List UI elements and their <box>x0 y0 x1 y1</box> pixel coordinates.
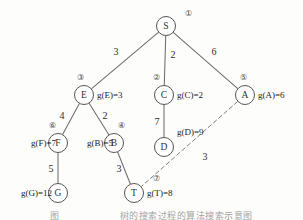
edge-weight-s-a: 6 <box>212 46 217 57</box>
node-cost-g: g(G)=12 <box>21 188 52 198</box>
graph-canvas: SECAFBDGT 326427533①③g(E)=3②g(C)=2⑤g(A)=… <box>0 0 303 220</box>
node-cost-t: g(T)=8 <box>147 188 173 198</box>
edge-s-a <box>174 33 238 89</box>
edge-weight-a-t: 3 <box>203 151 208 162</box>
figure-caption: 图 树的搜索过程的算法搜索示意图 <box>0 210 303 220</box>
node-label-a: A <box>242 90 249 100</box>
node-label-e: E <box>81 90 87 100</box>
node-cost-c: g(C)=2 <box>177 90 203 100</box>
node-cost-e: g(E)=3 <box>97 90 123 100</box>
node-label-t: T <box>131 188 137 198</box>
edge-weight-c-d: 7 <box>155 116 160 127</box>
node-label-s: S <box>163 21 168 31</box>
node-cost-f: g(F)=7 <box>31 138 57 148</box>
node-order-e: ③ <box>77 73 84 82</box>
node-label-c: C <box>161 90 167 100</box>
node-cost-b: g(B)=5 <box>87 138 114 148</box>
edge-weight-s-e: 3 <box>114 46 119 57</box>
edge-weight-s-c: 2 <box>171 49 176 60</box>
node-label-f: F <box>55 138 60 148</box>
node-label-g: G <box>55 188 62 198</box>
edge-s-e <box>92 32 159 88</box>
edge-weight-e-f: 4 <box>60 110 65 121</box>
node-cost-a: g(A)=6 <box>258 90 285 100</box>
node-order-b: ④ <box>118 121 125 130</box>
node-layer: SECAFBDGT <box>49 17 255 203</box>
node-label-d: D <box>161 142 168 152</box>
node-order-f: ⑥ <box>49 121 56 130</box>
node-order-a: ⑤ <box>240 73 247 82</box>
edge-e-f <box>63 104 79 134</box>
node-order-c: ② <box>153 73 160 82</box>
edge-weight-e-b: 2 <box>103 110 108 121</box>
edge-weight-f-g: 5 <box>49 163 54 174</box>
search-tree-figure: SECAFBDGT 326427533①③g(E)=3②g(C)=2⑤g(A)=… <box>0 0 303 220</box>
node-cost-d: g(D)=9 <box>177 127 204 137</box>
edge-s-c <box>164 36 165 85</box>
edge-weight-b-t: 3 <box>117 163 122 174</box>
node-order-s: ① <box>185 9 192 18</box>
node-order-t: ⑦ <box>153 174 160 183</box>
